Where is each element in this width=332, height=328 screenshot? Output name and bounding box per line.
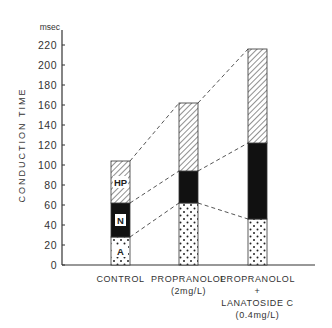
- y-tick-label: 200: [38, 59, 57, 71]
- segment-label-hp: HP: [114, 177, 128, 188]
- segment-label-a: A: [117, 246, 124, 257]
- bar-segment-a: [179, 203, 198, 265]
- stacked-bar-chart: msec020406080100120140160180200220 CONDU…: [0, 0, 332, 328]
- bars: ANHP: [111, 49, 267, 265]
- bar-segment-hp: [179, 103, 198, 171]
- y-unit-label: msec: [40, 22, 61, 32]
- y-tick-label: 140: [38, 119, 57, 131]
- bar-segment-hp: [248, 49, 267, 143]
- bar-segment-a: [248, 219, 267, 265]
- x-category-label: (2mg/L): [171, 286, 206, 296]
- bar-segment-n: [248, 143, 267, 219]
- y-tick-label: 40: [44, 219, 57, 231]
- x-category-label: PROPRANOLOL: [220, 274, 295, 284]
- x-category-label: +: [255, 286, 261, 296]
- y-axis: msec020406080100120140160180200220: [38, 22, 315, 271]
- x-category-label: CONTROL: [96, 274, 144, 284]
- y-tick-label: 0: [51, 259, 57, 271]
- y-tick-label: 120: [38, 139, 57, 151]
- y-tick-label: 100: [38, 159, 57, 171]
- y-tick-label: 20: [44, 239, 57, 251]
- y-axis-title: CONDUCTION TIME: [17, 88, 27, 203]
- x-category-label: PROPRANOLOL: [151, 274, 226, 284]
- y-tick-label: 80: [44, 179, 57, 191]
- y-tick-label: 60: [44, 199, 57, 211]
- y-tick-label: 220: [38, 39, 57, 51]
- x-category-label: LANATOSIDE C: [221, 298, 293, 308]
- bar-segment-n: [179, 171, 198, 203]
- y-axis-label: CONDUCTION TIME: [17, 88, 27, 203]
- x-axis-labels: CONTROLPROPRANOLOL(2mg/L)PROPRANOLOL+LAN…: [96, 274, 295, 320]
- y-tick-label: 160: [38, 99, 57, 111]
- x-category-label: (0.4mg/L): [236, 310, 280, 320]
- y-tick-label: 180: [38, 79, 57, 91]
- segment-label-n: N: [117, 215, 124, 226]
